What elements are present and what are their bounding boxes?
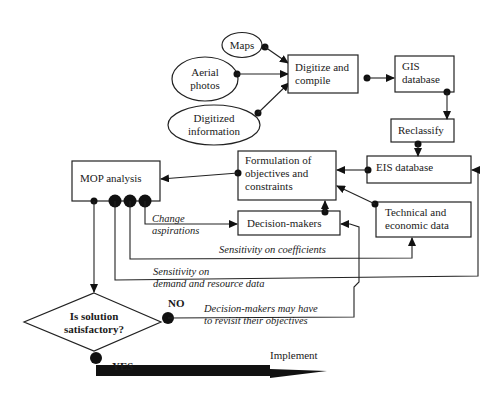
source-maps: Maps: [222, 33, 262, 58]
change-aspirations-label-line2: aspirations: [152, 225, 199, 236]
revisit-label-line2: to revisit their objectives: [204, 315, 308, 326]
mop-label: MOP analysis: [80, 172, 142, 184]
formulation-label-line1: Formulation of: [245, 154, 312, 166]
sensitivity-demand-label-line2: demand and resource data: [153, 278, 265, 289]
maps-label: Maps: [230, 39, 254, 51]
mop-flow-diagram: Maps Aerial photos Digitized information…: [0, 0, 493, 403]
gis-label-line2: database: [402, 73, 440, 85]
technical-label-line2: economic data: [385, 219, 449, 231]
sensitivity-coefficients-label: Sensitivity on coefficients: [219, 244, 326, 255]
box-technical-economic-data: Technical and economic data: [376, 202, 471, 237]
digitize-label-line1: Digitize and: [295, 61, 350, 73]
gis-label-line1: GIS: [402, 60, 420, 72]
reclassify-label: Reclassify: [398, 124, 444, 136]
source-digitized-information: Digitized information: [168, 105, 260, 145]
change-aspirations-label-line1: Change: [152, 213, 185, 224]
source-aerial-photos: Aerial photos: [172, 57, 238, 101]
decision-diamond: Is solution satisfactory?: [24, 293, 161, 351]
formulation-label-line2: objectives and: [245, 167, 309, 179]
box-gis-database: GIS database: [395, 56, 454, 92]
digitized-information-label-line1: Digitized: [194, 112, 235, 124]
box-reclassify: Reclassify: [391, 119, 454, 142]
revisit-label-line1: Decision-makers may have: [203, 303, 318, 314]
decision-makers-label: Decision-makers: [247, 217, 322, 229]
aerial-photos-label-line2: photos: [190, 79, 219, 91]
aerial-photos-label-line1: Aerial: [191, 66, 218, 78]
digitized-information-label-line2: information: [188, 125, 240, 137]
digitize-label-line2: compile: [295, 74, 331, 86]
implement-label: Implement: [270, 349, 318, 361]
box-formulation: Formulation of objectives and constraint…: [238, 151, 336, 200]
no-label: NO: [168, 297, 185, 309]
technical-label-line1: Technical and: [385, 206, 447, 218]
box-digitize-and-compile: Digitize and compile: [288, 55, 358, 93]
yes-label: YES: [112, 360, 133, 372]
box-eis-database: EIS database: [367, 156, 471, 183]
decision-label-line2: satisfactory?: [64, 323, 124, 335]
eis-label: EIS database: [376, 161, 433, 173]
formulation-label-line3: constraints: [245, 180, 293, 192]
decision-label-line1: Is solution: [70, 310, 119, 322]
sensitivity-demand-label-line1: Sensitivity on: [153, 266, 209, 277]
